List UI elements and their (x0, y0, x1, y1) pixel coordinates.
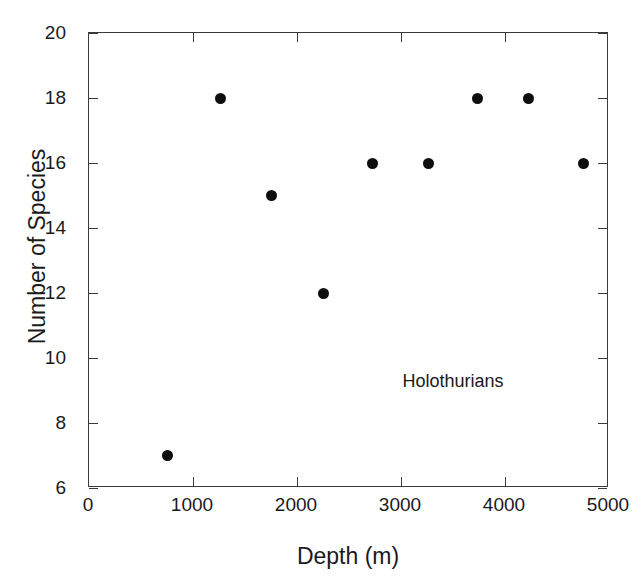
y-axis-tick-right (598, 293, 607, 294)
y-axis-tick (89, 358, 98, 359)
x-axis-tick-label: 4000 (483, 495, 525, 514)
y-axis-tick-right (598, 488, 607, 489)
data-point (367, 158, 378, 169)
x-axis-title: Depth (m) (88, 543, 608, 570)
y-axis-tick-right (598, 98, 607, 99)
series-annotation-label: Holothurians (402, 370, 503, 391)
data-point (472, 93, 483, 104)
x-axis-tick (193, 477, 194, 486)
y-axis-tick (89, 488, 98, 489)
data-point (423, 158, 434, 169)
x-axis-tick-top (193, 33, 194, 42)
x-axis-tick-label: 3000 (379, 495, 421, 514)
y-axis-tick (89, 98, 98, 99)
y-axis-tick (89, 423, 98, 424)
y-axis-title: Number of Species (24, 19, 51, 474)
plot-area: Holothurians (88, 32, 608, 487)
y-axis-tick-right (598, 33, 607, 34)
data-point (523, 93, 534, 104)
data-point (266, 190, 277, 201)
x-axis-tick (297, 477, 298, 486)
x-axis-tick-top (297, 33, 298, 42)
x-axis-tick-label: 0 (83, 495, 94, 514)
x-axis-tick-label: 2000 (275, 495, 317, 514)
y-axis-tick-label: 6 (55, 478, 66, 497)
x-axis-tick-label: 1000 (171, 495, 213, 514)
scatter-plot-figure: 68101214161820 Holothurians 010002000300… (0, 0, 642, 587)
data-point (215, 93, 226, 104)
x-axis-tick-top (505, 33, 506, 42)
data-point (318, 288, 329, 299)
x-axis-tick (505, 477, 506, 486)
data-point (162, 450, 173, 461)
y-axis-tick-right (598, 358, 607, 359)
data-point (578, 158, 589, 169)
x-axis-tick-labels: 010002000300040005000 (88, 495, 608, 521)
y-axis-tick-right (598, 228, 607, 229)
y-axis-tick-right (598, 423, 607, 424)
y-axis-tick (89, 163, 98, 164)
y-axis-tick (89, 228, 98, 229)
y-axis-tick-label: 8 (55, 413, 66, 432)
y-axis-tick (89, 293, 98, 294)
x-axis-tick-top (401, 33, 402, 42)
y-axis-tick-right (598, 163, 607, 164)
x-axis-tick (401, 477, 402, 486)
y-axis-tick (89, 33, 98, 34)
x-axis-tick-label: 5000 (587, 495, 629, 514)
